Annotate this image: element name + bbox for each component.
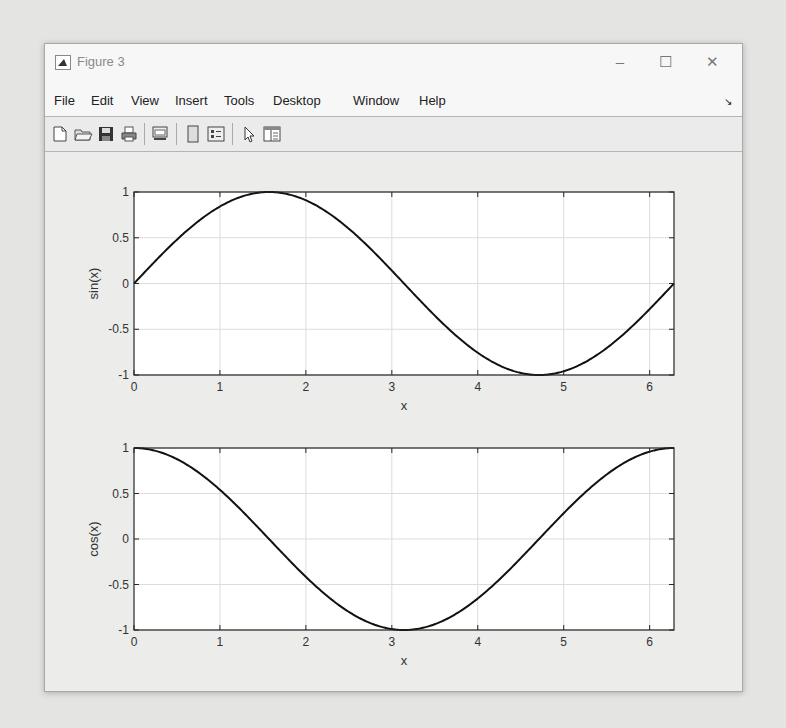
open-file-icon[interactable] <box>73 124 93 144</box>
toolbar-separator <box>176 123 177 145</box>
x-tick-label: 3 <box>388 635 395 649</box>
matlab-figure-icon <box>55 55 71 70</box>
x-tick-label: 4 <box>474 380 481 394</box>
x-tick-label: 0 <box>131 380 138 394</box>
y-tick-label: 1 <box>122 185 129 199</box>
menu-file[interactable]: File <box>54 93 75 108</box>
x-tick-label: 1 <box>217 635 224 649</box>
y-tick-label: 0.5 <box>112 231 129 245</box>
x-axis-label: x <box>401 398 408 413</box>
x-tick-label: 2 <box>303 635 310 649</box>
x-tick-label: 5 <box>560 635 567 649</box>
x-tick-label: 6 <box>646 635 653 649</box>
new-figure-icon[interactable] <box>50 124 70 144</box>
axes-sinx[interactable]: 0123456-1-0.500.51xsin(x) <box>86 185 674 413</box>
menu-insert[interactable]: Insert <box>175 93 208 108</box>
y-tick-label: -0.5 <box>108 578 129 592</box>
minimize-button[interactable]: – <box>600 48 640 76</box>
save-icon[interactable] <box>96 124 116 144</box>
axes-cosx[interactable]: 0123456-1-0.500.51xcos(x) <box>86 441 674 668</box>
x-tick-label: 1 <box>217 380 224 394</box>
toolbar-separator <box>144 123 145 145</box>
maximize-button[interactable]: ☐ <box>645 48 685 76</box>
dock-arrow-icon[interactable]: ↘ <box>724 96 732 107</box>
menu-desktop[interactable]: Desktop <box>273 93 321 108</box>
subplots[interactable]: 0123456-1-0.500.51xsin(x)0123456-1-0.500… <box>45 152 742 691</box>
y-tick-label: 0 <box>122 277 129 291</box>
y-axis-label: cos(x) <box>86 521 101 556</box>
toolbar <box>45 117 742 152</box>
x-tick-label: 0 <box>131 635 138 649</box>
x-tick-label: 6 <box>646 380 653 394</box>
menu-edit[interactable]: Edit <box>91 93 113 108</box>
y-tick-label: -1 <box>118 623 129 637</box>
figure-canvas[interactable]: 0123456-1-0.500.51xsin(x)0123456-1-0.500… <box>45 152 742 691</box>
link-plot-icon[interactable] <box>150 124 170 144</box>
print-icon[interactable] <box>119 124 139 144</box>
toolbar-separator <box>232 123 233 145</box>
menu-bar: File Edit View Insert Tools Desktop Wind… <box>45 80 742 117</box>
y-axis-label: sin(x) <box>86 268 101 300</box>
y-tick-label: -0.5 <box>108 322 129 336</box>
property-editor-icon[interactable] <box>262 124 282 144</box>
y-tick-label: 1 <box>122 441 129 455</box>
figure-window: Figure 3 – ☐ ✕ File Edit View Insert Too… <box>44 43 743 692</box>
y-tick-label: 0 <box>122 532 129 546</box>
y-tick-label: -1 <box>118 368 129 382</box>
y-tick-label: 0.5 <box>112 487 129 501</box>
x-axis-label: x <box>401 653 408 668</box>
hide-plot-tools-icon[interactable] <box>183 124 203 144</box>
menu-window[interactable]: Window <box>353 93 399 108</box>
menu-view[interactable]: View <box>131 93 159 108</box>
title-bar[interactable]: Figure 3 – ☐ ✕ <box>45 44 742 80</box>
x-tick-label: 3 <box>388 380 395 394</box>
x-tick-label: 4 <box>474 635 481 649</box>
window-title: Figure 3 <box>77 54 125 69</box>
x-tick-label: 2 <box>303 380 310 394</box>
menu-tools[interactable]: Tools <box>224 93 254 108</box>
close-button[interactable]: ✕ <box>692 48 732 76</box>
menu-help[interactable]: Help <box>419 93 446 108</box>
edit-plot-pointer-icon[interactable] <box>239 124 259 144</box>
x-tick-label: 5 <box>560 380 567 394</box>
show-plot-tools-icon[interactable] <box>206 124 226 144</box>
